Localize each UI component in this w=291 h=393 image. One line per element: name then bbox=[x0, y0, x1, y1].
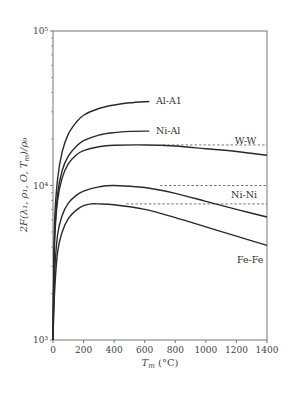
x-tick-label: 200 bbox=[75, 345, 92, 355]
chart: 0200400600800100012001400 10³10⁴10⁵ Al-A… bbox=[0, 0, 291, 393]
x-tick-label: 1400 bbox=[256, 345, 279, 355]
y-axis-title-main: 2F(λ₁, ρ₁, O, T bbox=[18, 160, 29, 233]
y-axis-title-end: )/ρ₀ bbox=[18, 138, 29, 156]
series-label-al-a1: Al-A1 bbox=[155, 95, 182, 106]
series-line-ni-ni bbox=[53, 185, 267, 340]
series-label-ni-al: Ni-Al bbox=[156, 125, 180, 136]
y-tick-label: 10⁴ bbox=[33, 181, 48, 191]
y-tick-label: 10⁵ bbox=[33, 26, 48, 36]
y-tick-label: 10³ bbox=[33, 335, 48, 345]
series-label-w-w: W-W bbox=[235, 135, 257, 146]
x-tick-label: 600 bbox=[136, 345, 153, 355]
x-tick-label: 0 bbox=[50, 345, 56, 355]
x-tick-label: 400 bbox=[106, 345, 123, 355]
x-tick-label: 800 bbox=[167, 345, 184, 355]
x-axis-title: Tm (°C) bbox=[142, 357, 179, 370]
series-label-fe-fe: Fe-Fe bbox=[237, 254, 264, 265]
series-line-fe-fe bbox=[53, 204, 267, 340]
y-axis-ticks: 10³10⁴10⁵ bbox=[33, 26, 53, 345]
y-axis-title: 2F(λ₁, ρ₁, O, Tm)/ρ₀ bbox=[18, 138, 31, 234]
x-axis-ticks: 0200400600800100012001400 bbox=[50, 340, 279, 355]
series-line-ni-al bbox=[53, 131, 149, 340]
x-axis-title-unit: (°C) bbox=[155, 357, 179, 368]
series-line-w-w bbox=[53, 145, 267, 340]
x-tick-label: 1000 bbox=[194, 345, 217, 355]
x-tick-label: 1200 bbox=[225, 345, 248, 355]
series-label-ni-ni: Ni-Ni bbox=[231, 189, 257, 200]
